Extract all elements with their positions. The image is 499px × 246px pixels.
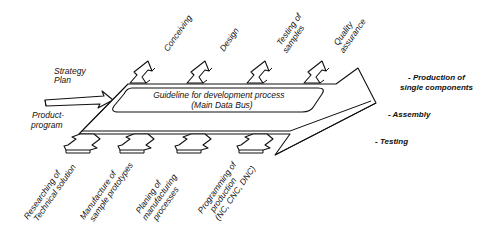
label-testing-of-samples: Testing of samples — [273, 10, 313, 55]
label-manufacture-sample-prototypes: Manufacture of sample prototypes — [77, 155, 135, 227]
output-production-single-components: - Production of single components — [400, 73, 473, 92]
input-arrow — [45, 91, 113, 108]
upper-arrow-conceiving — [130, 61, 155, 83]
product-program-label: Product- program — [30, 110, 67, 130]
lower-arrow-planing — [175, 134, 211, 153]
strategy-plan-label: Strategy Plan — [54, 66, 88, 85]
main-data-bus-arrow — [79, 68, 376, 155]
upper-arrow-design — [187, 61, 212, 83]
label-planing-manufacturing-processes: Planing of manufacturing processes — [132, 165, 187, 227]
label-conceiving: Conceiving — [161, 13, 193, 53]
lower-arrow-manufacture — [118, 134, 154, 153]
upper-arrow-testing-of-samples — [247, 61, 272, 83]
output-assembly: - Assembly — [388, 110, 431, 119]
label-quality-assurance: Quality assurance — [330, 12, 368, 55]
label-design: Design — [217, 26, 241, 54]
development-process-diagram: Strategy Plan Product- program Guideline… — [0, 0, 499, 246]
output-testing: - Testing — [375, 137, 408, 146]
lower-arrow-programming — [237, 134, 273, 153]
label-programming-of-production: Programming of production (NC, CNC, DNC) — [195, 153, 257, 225]
label-researching-technical-solution: Researching of Technical solution — [21, 157, 78, 226]
upper-arrow-quality-assurance — [304, 61, 329, 83]
lower-arrow-researching — [64, 134, 100, 153]
